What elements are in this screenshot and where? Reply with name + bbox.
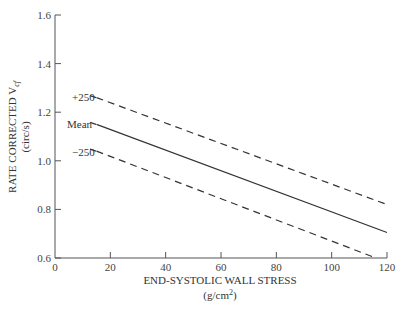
x-tick-label: 20	[105, 261, 117, 273]
annotation-plus250: +250	[72, 91, 95, 103]
y-axis-units: (circ/s)	[19, 121, 32, 152]
annotation-minus250: −250	[72, 146, 95, 158]
y-tick-label: 1.0	[37, 155, 51, 167]
x-ticks: 020406080100120	[52, 252, 396, 273]
x-axis-units: (g/cm2)	[203, 288, 237, 302]
series-lines	[90, 96, 387, 258]
x-tick-label: 100	[323, 261, 340, 273]
y-ticks: 0.60.81.01.21.41.6	[37, 9, 61, 264]
chart: 0.60.81.01.21.41.6 020406080100120 +250 …	[0, 0, 406, 309]
x-tick-label: 60	[216, 261, 228, 273]
y-tick-label: 0.6	[37, 252, 51, 264]
x-axis-title: END-SYSTOLIC WALL STRESS	[143, 274, 296, 286]
y-tick-label: 0.8	[37, 203, 51, 215]
y-tick-label: 1.6	[37, 9, 51, 21]
x-tick-label: 0	[52, 261, 58, 273]
y-tick-label: 1.4	[37, 58, 51, 70]
y-tick-label: 1.2	[37, 106, 51, 118]
svg-text:(circ/s): (circ/s)	[19, 121, 32, 152]
x-tick-label: 120	[379, 261, 396, 273]
x-tick-label: 40	[160, 261, 172, 273]
series-line-minus250	[97, 151, 376, 258]
annotation-mean: Mean	[67, 118, 93, 130]
series-line-mean	[97, 124, 388, 232]
x-tick-label: 80	[271, 261, 283, 273]
series-line-plus250	[97, 98, 388, 205]
